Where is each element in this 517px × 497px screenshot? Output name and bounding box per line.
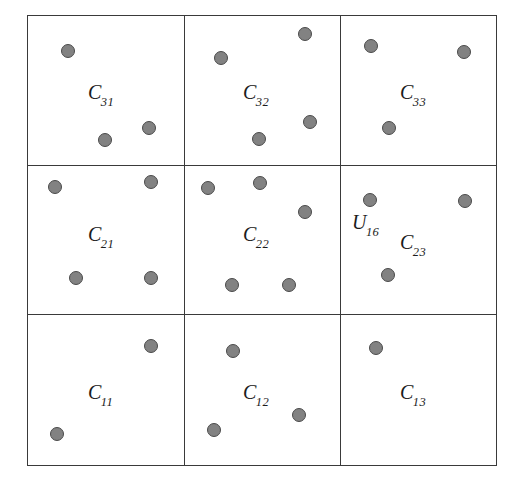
cell-label-c33: C33 (400, 82, 427, 106)
data-point (298, 205, 312, 219)
cell-label-base: C (400, 381, 414, 403)
data-point (98, 133, 112, 147)
cell-label-c21: C21 (88, 224, 115, 248)
data-point (282, 278, 296, 292)
cell-label-base: C (88, 81, 102, 103)
cell-label-c11: C11 (88, 382, 114, 406)
data-point (144, 175, 158, 189)
cell-label-c12: C12 (243, 382, 270, 406)
data-point (50, 427, 64, 441)
data-point (225, 278, 239, 292)
cell-label-subscript: 33 (413, 95, 426, 109)
data-point (252, 132, 266, 146)
data-point (214, 51, 228, 65)
data-point (364, 39, 378, 53)
cell-label-subscript: 11 (101, 395, 113, 409)
data-point (369, 341, 383, 355)
data-point (142, 121, 156, 135)
cell-label-subscript: 23 (413, 245, 426, 259)
data-point (381, 268, 395, 282)
grid-horizontal-line-1 (27, 165, 497, 166)
data-point (144, 271, 158, 285)
data-point (457, 45, 471, 59)
data-point-u16 (363, 193, 377, 207)
cell-label-c13: C13 (400, 382, 427, 406)
data-point (48, 180, 62, 194)
cell-label-base: C (243, 223, 257, 245)
data-point (201, 181, 215, 195)
cell-label-c32: C32 (243, 82, 270, 106)
data-point (226, 344, 240, 358)
cell-label-base: C (88, 223, 102, 245)
cell-label-subscript: 21 (101, 237, 114, 251)
data-point (253, 176, 267, 190)
data-point (61, 44, 75, 58)
cell-label-base: C (88, 381, 102, 403)
cell-label-c22: C22 (243, 224, 270, 248)
cell-label-base: C (400, 231, 414, 253)
grid-vertical-line-1 (184, 15, 185, 466)
cell-label-c31: C31 (88, 82, 115, 106)
data-point (298, 27, 312, 41)
data-point (458, 194, 472, 208)
data-point (292, 408, 306, 422)
cell-label-base: C (243, 381, 257, 403)
data-point (69, 271, 83, 285)
cell-label-subscript: 22 (256, 237, 269, 251)
cell-label-subscript: 32 (256, 95, 269, 109)
cell-label-subscript: 13 (413, 395, 426, 409)
cell-label-base: C (400, 81, 414, 103)
data-point (207, 423, 221, 437)
data-point (144, 339, 158, 353)
point-label-subscript: 16 (366, 225, 379, 239)
grid-horizontal-line-2 (27, 314, 497, 315)
point-label-u16: U16 (352, 212, 380, 236)
data-point (303, 115, 317, 129)
cell-label-subscript: 31 (101, 95, 114, 109)
data-point (382, 121, 396, 135)
grid-vertical-line-2 (340, 15, 341, 466)
grid-scatter-figure: C31C32C33C21C22C23C11C12C13 U16 (0, 0, 517, 497)
cell-label-base: C (243, 81, 257, 103)
point-label-base: U (352, 211, 367, 233)
cell-label-subscript: 12 (256, 395, 269, 409)
cell-label-c23: C23 (400, 232, 427, 256)
